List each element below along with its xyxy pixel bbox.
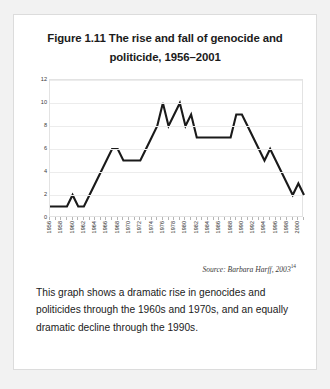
figure-page: Figure 1.11 The rise and fall of genocid… (0, 0, 330, 389)
grid-line (50, 80, 302, 81)
x-tick-label: 1982 (193, 221, 199, 233)
grid-line (50, 126, 302, 127)
x-tick (258, 217, 259, 220)
grid-line (50, 149, 302, 150)
x-axis-labels: 1956195819601962196419661968197019721974… (49, 221, 303, 257)
y-tick-label: 2 (21, 191, 47, 197)
chart-area: 024681012 195619581960196219641966196819… (18, 73, 312, 261)
y-tick-label: 6 (21, 145, 47, 151)
x-tick-label: 1958 (57, 221, 63, 233)
x-tick-label: 1960 (69, 221, 75, 233)
x-tick (105, 217, 106, 220)
x-tick (218, 217, 219, 220)
x-tick-label: 1978 (170, 221, 176, 233)
x-tick-label: 1974 (148, 221, 154, 233)
x-tick (263, 217, 264, 220)
x-tick (111, 217, 112, 220)
x-tick-label: 2000 (294, 221, 300, 233)
x-tick-label: 1986 (215, 221, 221, 233)
source-attribution: Source: Barbara Harff, 200314 (14, 261, 316, 274)
x-tick (179, 217, 180, 220)
x-tick (77, 217, 78, 220)
x-tick (275, 217, 276, 220)
x-tick (235, 217, 236, 220)
x-tick-label: 1996 (272, 221, 278, 233)
x-tick (151, 217, 152, 220)
x-tick (168, 217, 169, 220)
x-tick (100, 217, 101, 220)
x-tick (230, 217, 231, 220)
source-footnote-marker: 14 (291, 263, 296, 269)
source-text: Source: Barbara Harff, 2003 (202, 265, 290, 274)
x-tick-label: 1998 (283, 221, 289, 233)
y-tick-label: 4 (21, 168, 47, 174)
x-tick (162, 217, 163, 220)
y-tick-label: 10 (21, 99, 47, 105)
x-tick-label: 1956 (46, 221, 52, 233)
x-tick (196, 217, 197, 220)
data-line (50, 103, 304, 207)
x-tick-label: 1988 (227, 221, 233, 233)
x-tick (269, 217, 270, 220)
x-tick (241, 217, 242, 220)
x-tick-label: 1966 (102, 221, 108, 233)
x-tick (190, 217, 191, 220)
x-tick-label: 1984 (204, 221, 210, 233)
x-tick (83, 217, 84, 220)
x-tick (49, 217, 50, 220)
x-tick-label: 1992 (249, 221, 255, 233)
y-axis-labels: 024681012 (18, 79, 47, 217)
y-tick-label: 0 (21, 214, 47, 220)
x-tick-label: 1962 (80, 221, 86, 233)
x-tick (60, 217, 61, 220)
x-tick-label: 1976 (159, 221, 165, 233)
x-tick (134, 217, 135, 220)
x-tick (156, 217, 157, 220)
x-tick-label: 1972 (136, 221, 142, 233)
x-tick-label: 1964 (91, 221, 97, 233)
x-tick-label: 1970 (125, 221, 131, 233)
x-tick (184, 217, 185, 220)
x-tick (139, 217, 140, 220)
x-tick (207, 217, 208, 220)
plot-area (49, 79, 303, 217)
x-tick (224, 217, 225, 220)
x-tick (292, 217, 293, 220)
x-tick (66, 217, 67, 220)
x-tick (303, 217, 304, 220)
x-tick (122, 217, 123, 220)
x-tick (201, 217, 202, 220)
x-tick (280, 217, 281, 220)
x-tick (55, 217, 56, 220)
x-tick (297, 217, 298, 220)
figure-caption: This graph shows a dramatic rise in geno… (14, 274, 316, 337)
x-tick (72, 217, 73, 220)
x-tick-label: 1968 (114, 221, 120, 233)
x-tick (94, 217, 95, 220)
grid-line (50, 195, 302, 196)
figure-title: Figure 1.11 The rise and fall of genocid… (14, 15, 316, 67)
x-tick (128, 217, 129, 220)
x-tick-label: 1994 (260, 221, 266, 233)
figure-card: Figure 1.11 The rise and fall of genocid… (13, 14, 317, 370)
x-tick (213, 217, 214, 220)
x-tick (247, 217, 248, 220)
x-tick (173, 217, 174, 220)
x-tick-label: 1990 (238, 221, 244, 233)
grid-line (50, 172, 302, 173)
x-tick (145, 217, 146, 220)
grid-line (50, 103, 302, 104)
y-tick-label: 8 (21, 122, 47, 128)
x-tick-label: 1980 (181, 221, 187, 233)
x-tick (117, 217, 118, 220)
x-tick (252, 217, 253, 220)
x-tick (89, 217, 90, 220)
y-tick-label: 12 (21, 76, 47, 82)
x-tick (286, 217, 287, 220)
